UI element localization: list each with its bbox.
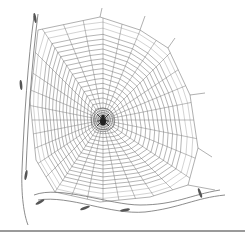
web-radials xyxy=(31,18,197,202)
bottom-rule xyxy=(0,230,245,232)
spider-web-drawing xyxy=(0,0,245,235)
web-illustration: Orb spider web illustration xyxy=(0,0,245,235)
web-spiral xyxy=(34,22,193,198)
